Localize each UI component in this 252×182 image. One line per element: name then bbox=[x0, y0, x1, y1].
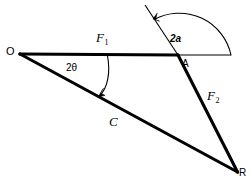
label-angle-2a: 2a bbox=[170, 34, 181, 44]
force1-vector-line bbox=[20, 54, 178, 55]
angle-2theta-arc bbox=[100, 56, 109, 96]
oblique-extension-line bbox=[145, 5, 178, 55]
label-force1-symbol: F bbox=[96, 30, 104, 45]
label-force2-symbol: F bbox=[207, 88, 215, 103]
angle-2a-arc bbox=[154, 13, 231, 55]
label-chord-c: C bbox=[109, 115, 118, 128]
label-force2-subscript: 2 bbox=[215, 96, 219, 105]
label-force2: F2 bbox=[207, 89, 219, 102]
label-force1-subscript: 1 bbox=[104, 38, 108, 47]
force-diagram-figure: O A R F1 F2 C 2a 2θ bbox=[0, 0, 252, 182]
label-point-o: O bbox=[6, 46, 15, 57]
label-point-a: A bbox=[182, 59, 189, 69]
label-point-r: R bbox=[239, 168, 246, 178]
chord-vector-line bbox=[20, 54, 238, 172]
label-force1: F1 bbox=[96, 31, 108, 44]
label-angle-2theta: 2θ bbox=[66, 63, 77, 73]
vertex-marker-o bbox=[18, 52, 21, 55]
